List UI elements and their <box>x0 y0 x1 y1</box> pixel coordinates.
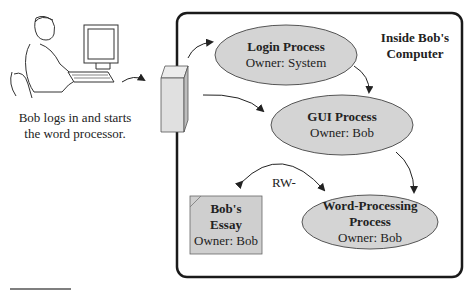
arrow-to-gui <box>203 95 263 111</box>
file-name-2: Essay <box>190 217 262 233</box>
wp-process-label: Word-Processing Process Owner: Bob <box>302 198 438 246</box>
file-name-1: Bob's <box>190 201 262 217</box>
title-line-2: Computer <box>375 46 455 62</box>
file-owner: Owner: Bob <box>190 233 262 249</box>
caption: Bob logs in and starts the word processo… <box>0 110 150 142</box>
gui-process-label: GUI Process Owner: Bob <box>271 109 413 141</box>
arrow-person-to-computer <box>122 77 144 82</box>
caption-line-2: the word processor. <box>0 126 150 142</box>
caption-line-1: Bob logs in and starts <box>0 110 150 126</box>
wp-process-owner: Owner: Bob <box>302 230 438 246</box>
login-process-name: Login Process <box>215 39 357 55</box>
login-process-owner: Owner: System <box>215 55 357 71</box>
permission-label: RW- <box>264 175 304 191</box>
gui-process-owner: Owner: Bob <box>271 125 413 141</box>
computer-box-title: Inside Bob's Computer <box>375 30 455 62</box>
essay-file-label: Bob's Essay Owner: Bob <box>190 201 262 249</box>
login-process-label: Login Process Owner: System <box>215 39 357 71</box>
title-line-1: Inside Bob's <box>375 30 455 46</box>
gui-process-name: GUI Process <box>271 109 413 125</box>
computer-tower-icon <box>161 66 188 132</box>
arrow-to-login <box>188 42 212 58</box>
wp-process-name-1: Word-Processing <box>302 198 438 214</box>
arrow-gui-to-wp <box>396 152 414 192</box>
person-at-computer-icon <box>11 16 118 98</box>
wp-process-name-2: Process <box>302 214 438 230</box>
